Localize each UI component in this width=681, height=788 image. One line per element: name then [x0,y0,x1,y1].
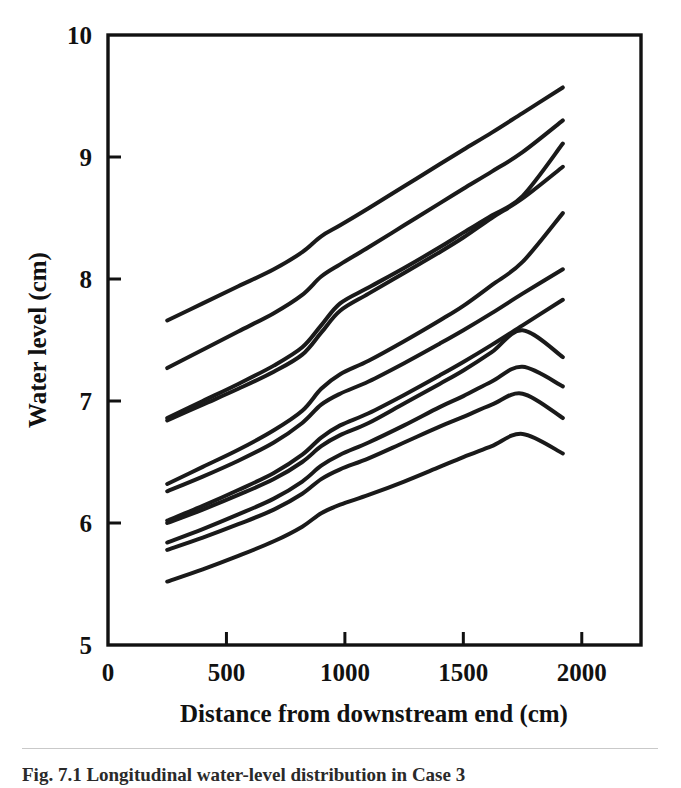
y-tick-label-10: 10 [67,22,92,49]
x-axis-title: Distance from downstream end (cm) [180,700,568,728]
y-tick-label-7: 7 [80,388,93,415]
x-axis-tick-labels: 0500100015002000 [102,659,607,686]
figure-divider [22,748,658,749]
water-level-chart: 5678910 0500100015002000 Distance from d… [0,0,681,748]
x-tick-label-1500: 1500 [438,659,488,686]
plot-frame [108,35,641,645]
curve-profile-7 [167,300,563,521]
x-tick-label-0: 0 [102,659,115,686]
x-tick-label-500: 500 [208,659,246,686]
curve-profile-2 [167,120,563,368]
y-tick-label-6: 6 [80,510,93,537]
figure-panel: 5678910 0500100015002000 Distance from d… [0,0,681,748]
y-axis-ticks [108,157,121,523]
y-tick-label-8: 8 [80,266,93,293]
y-tick-label-5: 5 [80,632,93,659]
y-axis-tick-labels: 5678910 [67,22,92,659]
x-tick-label-1000: 1000 [320,659,370,686]
x-tick-label-2000: 2000 [557,659,607,686]
figure-caption: Fig. 7.1 Longitudinal water-level distri… [22,762,658,788]
curve-profile-1 [167,87,563,320]
y-tick-label-9: 9 [80,144,93,171]
x-axis-ticks [226,632,581,645]
data-curves [167,87,563,581]
curve-profile-3 [167,144,563,419]
y-axis-title: Water level (cm) [24,252,52,428]
